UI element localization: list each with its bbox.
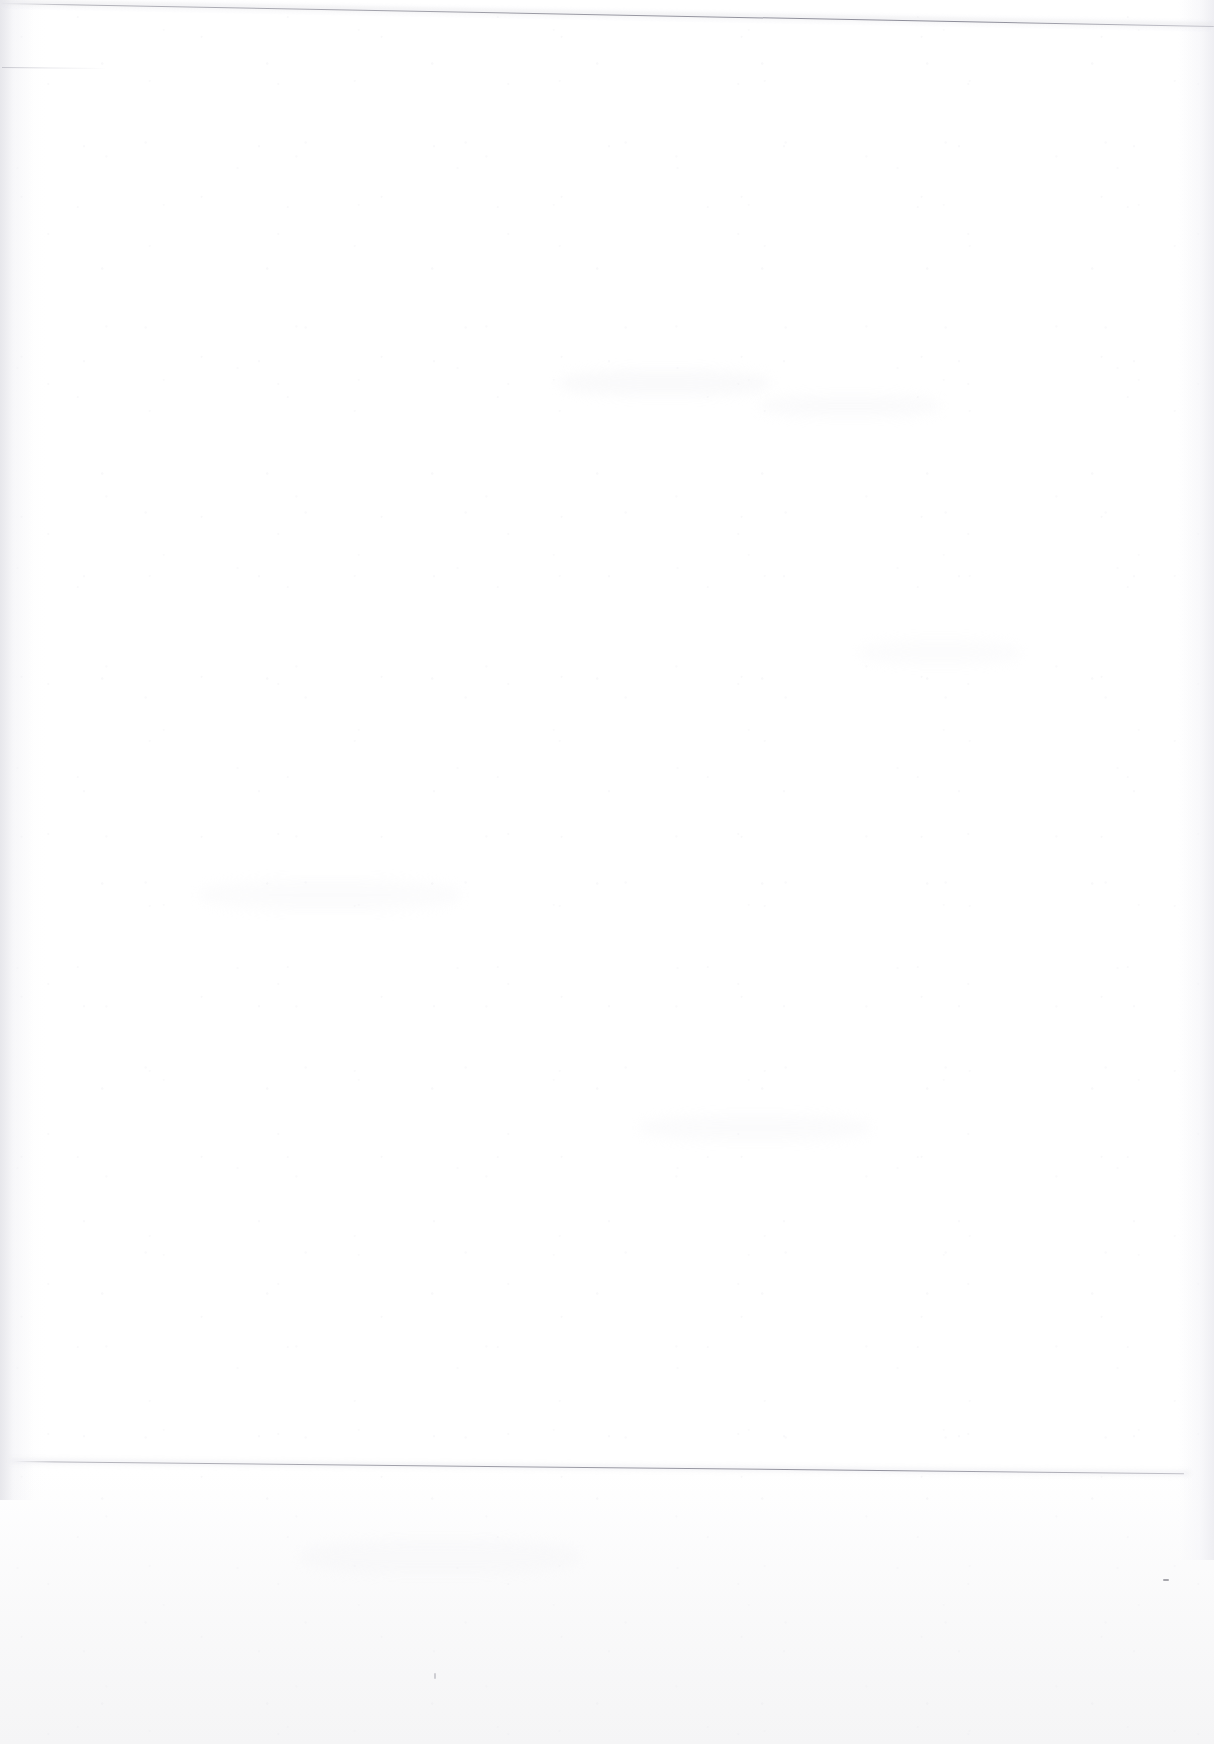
scanner-backing-area	[0, 1470, 1214, 1744]
scanned-page-canvas: Blank scanned page with no printed text,…	[0, 0, 1214, 1744]
paper-sheet	[0, 0, 1214, 1500]
